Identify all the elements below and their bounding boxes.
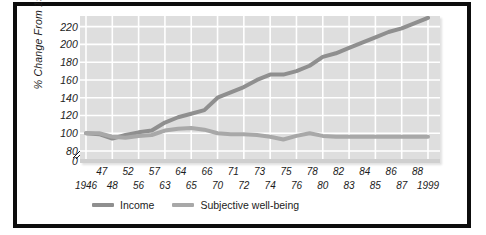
x-tick-label: 65 — [186, 180, 197, 191]
series-line-income — [86, 18, 428, 139]
x-tick-label: 83 — [344, 180, 355, 191]
x-tick-label: 87 — [396, 180, 407, 191]
x-tick-label: 84 — [359, 166, 370, 177]
y-tick-label: 100 — [60, 127, 78, 139]
x-tick-label: 80 — [317, 180, 328, 191]
x-tick-label: 73 — [254, 166, 265, 177]
x-axis-tick-labels-bottom: 19464856636570727476808385871999 — [80, 180, 440, 194]
x-tick-label: 76 — [291, 180, 302, 191]
plot-area — [80, 16, 440, 163]
legend-item-subjective-well-being[interactable]: Subjective well-being — [172, 199, 299, 211]
x-tick-label: 86 — [386, 166, 397, 177]
legend-swatch — [172, 203, 194, 207]
chart-legend: IncomeSubjective well-being — [92, 198, 299, 212]
legend-item-income[interactable]: Income — [92, 199, 154, 211]
legend-label: Subjective well-being — [200, 199, 299, 211]
x-tick-label: 70 — [212, 180, 223, 191]
axis-baseline — [80, 159, 440, 163]
x-tick-label: 63 — [159, 180, 170, 191]
x-tick-label: 57 — [149, 166, 160, 177]
x-tick-label: 71 — [228, 166, 239, 177]
x-tick-label: 85 — [370, 180, 381, 191]
y-tick-label: 120 — [60, 109, 78, 121]
legend-swatch — [92, 203, 114, 207]
y-tick-label: 160 — [60, 74, 78, 86]
y-tick-label: 140 — [60, 92, 78, 104]
x-tick-label: 1999 — [417, 180, 439, 191]
legend-label: Income — [120, 199, 154, 211]
x-axis-tick-labels-top: 47525764667173757882848688 — [80, 166, 440, 180]
y-tick-label: 220 — [60, 21, 78, 33]
y-tick-label: 0 — [72, 155, 78, 167]
x-tick-label: 88 — [412, 166, 423, 177]
x-tick-label: 78 — [307, 166, 318, 177]
y-axis-tick-labels: 220200180160140120100800 — [36, 16, 78, 164]
x-tick-label: 82 — [333, 166, 344, 177]
x-tick-label: 48 — [107, 180, 118, 191]
y-tick-label: 180 — [60, 56, 78, 68]
x-tick-label: 52 — [123, 166, 134, 177]
x-tick-label: 56 — [133, 180, 144, 191]
x-tick-label: 72 — [238, 180, 249, 191]
x-tick-label: 47 — [96, 166, 107, 177]
x-tick-label: 75 — [280, 166, 291, 177]
y-tick-label: 200 — [60, 38, 78, 50]
plot-lines — [80, 16, 440, 163]
chart-figure: % Change From 1946 220200180160140120100… — [0, 0, 486, 235]
x-tick-label: 1946 — [75, 180, 97, 191]
x-tick-label: 66 — [201, 166, 212, 177]
x-tick-label: 74 — [265, 180, 276, 191]
x-tick-label: 64 — [175, 166, 186, 177]
